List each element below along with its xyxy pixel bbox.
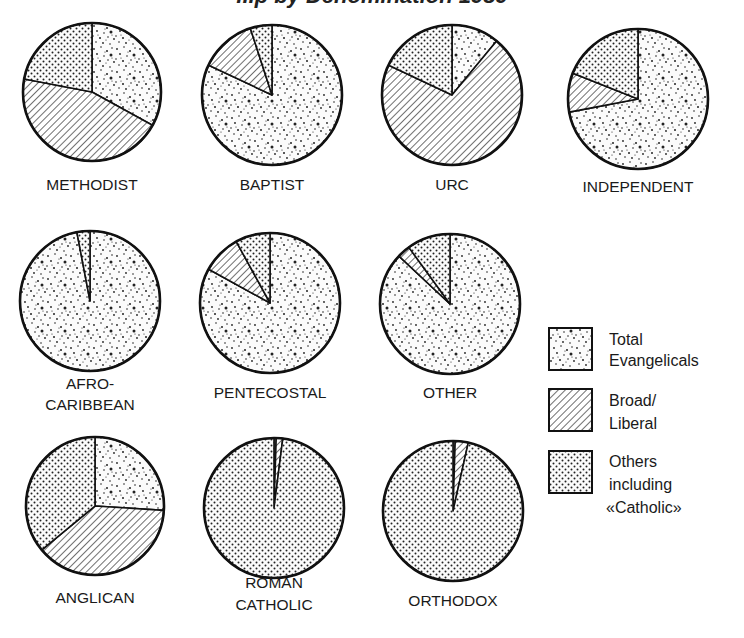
legend-label: «Catholic» (606, 499, 682, 516)
legend: Total Evangelicals Broad/ Liberal Others… (549, 328, 699, 516)
legend-swatch-evangelicals (549, 328, 592, 370)
pie-label: PENTECOSTAL (214, 384, 327, 401)
legend-label: Evangelicals (609, 352, 699, 369)
pie-afro-caribbean: AFRO-CARIBBEAN (20, 231, 160, 413)
legend-label: Others (609, 453, 657, 470)
pie-label: CARIBBEAN (45, 396, 135, 413)
pie-methodist: METHODIST (23, 23, 161, 193)
legend-item-evangelicals: Total Evangelicals (549, 328, 699, 370)
pie-orthodox: ORTHODOX (383, 441, 523, 609)
pie-label: ROMAN (245, 574, 303, 591)
legend-item-others: Others including «Catholic» (549, 451, 682, 516)
pie-label: ORTHODOX (408, 592, 498, 609)
pie-label: BAPTIST (240, 176, 305, 193)
pie-baptist: BAPTIST (202, 25, 342, 193)
pie-anglican: ANGLICAN (26, 437, 164, 606)
pie-other: OTHER (380, 234, 520, 401)
pie-label: OTHER (423, 384, 477, 401)
legend-label: including (609, 476, 672, 493)
pie-urc: URC (382, 25, 522, 193)
legend-swatch-others (549, 451, 592, 493)
pie-label: METHODIST (46, 176, 138, 193)
pie-pentecostal: PENTECOSTAL (200, 233, 340, 401)
pie-slice-evangelical (95, 437, 164, 510)
pie-independent: INDEPENDENT (568, 29, 708, 195)
pie-label: URC (435, 176, 469, 193)
legend-swatch-broad-liberal (549, 389, 592, 431)
legend-label: Liberal (609, 415, 657, 432)
pie-label: INDEPENDENT (582, 178, 694, 195)
pie-label: AFRO- (66, 375, 114, 392)
legend-item-broad-liberal: Broad/ Liberal (549, 389, 657, 432)
pie-label: CATHOLIC (235, 596, 312, 613)
legend-label: Total (609, 331, 643, 348)
legend-label: Broad/ (609, 392, 657, 409)
pie-chart-grid: METHODISTBAPTISTURCINDEPENDENTAFRO-CARIB… (0, 0, 744, 638)
pie-label: ANGLICAN (55, 589, 134, 606)
pie-roman-catholic: ROMANCATHOLIC (204, 438, 344, 613)
